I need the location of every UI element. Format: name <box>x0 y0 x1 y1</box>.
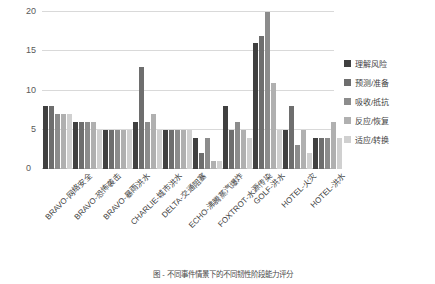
y-tick-zero: 0 <box>26 163 31 173</box>
legend-label: 适应/转换 <box>355 134 389 145</box>
bar-group <box>252 12 282 169</box>
bar-chart: 5101520 0 BRAVO-网络安全BRAVO-恐怖袭击BRAVO-暴雨洪水… <box>0 0 435 284</box>
bar <box>307 153 312 169</box>
y-tick-label-15: 15 <box>26 45 36 55</box>
legend-label: 理解风险 <box>355 58 387 69</box>
bar <box>145 122 150 169</box>
bar <box>253 43 258 169</box>
bar <box>313 138 318 169</box>
bar-groups <box>42 12 334 169</box>
bar-group <box>72 12 102 169</box>
bar <box>277 130 282 169</box>
y-tick-label-5: 5 <box>31 124 36 134</box>
bar-group <box>132 12 162 169</box>
bar <box>79 122 84 169</box>
bar <box>127 130 132 169</box>
legend-item[interactable]: 理解风险 <box>344 58 434 69</box>
bar <box>103 130 108 169</box>
bar <box>301 130 306 169</box>
bar <box>67 114 72 169</box>
bar <box>157 130 162 169</box>
legend-item[interactable]: 吸收/抵抗 <box>344 96 434 107</box>
legend-swatch-icon <box>344 79 351 86</box>
bar <box>271 83 276 169</box>
bar <box>109 130 114 169</box>
bar <box>91 122 96 169</box>
bar <box>295 145 300 169</box>
x-axis-label: FOXTROT-水源传染 <box>217 172 274 229</box>
bar <box>259 36 264 169</box>
bar <box>325 138 330 169</box>
bar <box>151 114 156 169</box>
bar <box>319 138 324 169</box>
bar <box>247 138 252 169</box>
bar <box>121 130 126 169</box>
bar <box>139 67 144 169</box>
bar-group <box>102 12 132 169</box>
bar <box>205 138 210 169</box>
bar <box>163 130 168 169</box>
bar <box>199 153 204 169</box>
bar <box>187 130 192 169</box>
legend-label: 预测/准备 <box>355 77 389 88</box>
bar-group <box>312 12 342 169</box>
bar <box>133 122 138 169</box>
bar <box>169 130 174 169</box>
legend-label: 反应/恢复 <box>355 115 389 126</box>
y-tick-label-10: 10 <box>26 85 36 95</box>
bar <box>331 122 336 169</box>
bar <box>235 122 240 169</box>
legend-swatch-icon <box>344 136 351 143</box>
plot-area: 5101520 <box>42 12 334 169</box>
chart-legend: 理解风险预测/准备吸收/抵抗反应/恢复适应/转换 <box>344 58 434 153</box>
bar <box>175 130 180 169</box>
legend-label: 吸收/抵抗 <box>355 96 389 107</box>
bar-group <box>222 12 252 169</box>
legend-item[interactable]: 反应/恢复 <box>344 115 434 126</box>
bar <box>217 161 222 169</box>
bar-group <box>42 12 72 169</box>
bar <box>55 114 60 169</box>
bar <box>211 161 216 169</box>
bar <box>97 130 102 169</box>
legend-swatch-icon <box>344 98 351 105</box>
bar <box>73 122 78 169</box>
legend-swatch-icon <box>344 60 351 67</box>
bar <box>223 106 228 169</box>
figure-caption: 图 - 不同事件情景下的不同韧性阶段能力评分 <box>48 268 398 279</box>
bar <box>61 114 66 169</box>
bar <box>241 130 246 169</box>
bar <box>181 130 186 169</box>
legend-item[interactable]: 适应/转换 <box>344 134 434 145</box>
bar <box>115 130 120 169</box>
bar <box>289 106 294 169</box>
bar-group <box>162 12 192 169</box>
bar <box>229 130 234 169</box>
bar <box>283 130 288 169</box>
bar <box>193 138 198 169</box>
bar <box>265 12 270 169</box>
legend-item[interactable]: 预测/准备 <box>344 77 434 88</box>
bar <box>49 106 54 169</box>
legend-swatch-icon <box>344 117 351 124</box>
bar <box>85 122 90 169</box>
bar-group <box>282 12 312 169</box>
bar-group <box>192 12 222 169</box>
bar <box>337 138 342 169</box>
y-tick-label-20: 20 <box>26 6 36 16</box>
bar <box>43 106 48 169</box>
